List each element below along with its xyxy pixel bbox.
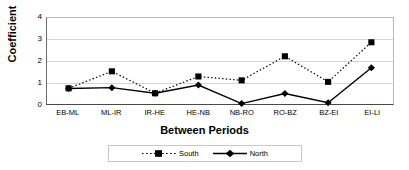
legend-swatch-south-dotted-square-icon	[142, 149, 176, 158]
legend-label-north: North	[250, 149, 268, 158]
legend-item-north[interactable]: North	[213, 149, 268, 158]
y-axis-tick-labels: 0 1 2 3 4	[28, 0, 42, 170]
data-point-south-nb-ro	[239, 77, 245, 83]
data-point-north-ml-ir	[108, 84, 115, 91]
legend-label-south: South	[179, 149, 199, 158]
x-axis-tick-labels: EB-MLML-IRIR-HEHE-NBNB-RORO-BZBZ-EIEI-LI	[46, 108, 394, 120]
plot-area	[46, 17, 394, 105]
data-point-south-ro-bz	[282, 53, 288, 59]
data-point-south-ml-ir	[109, 68, 115, 74]
x-axis-title: Between Periods	[0, 124, 409, 136]
series-plot	[47, 18, 393, 104]
chart-container: Coefficient 0 1 2 3 4 EB-MLML-IRIR-HEHE-…	[0, 0, 409, 170]
x-tick-label-ir-he: IR-HE	[145, 108, 165, 118]
legend: South North	[108, 145, 302, 162]
data-point-north-ro-bz	[281, 90, 288, 97]
x-tick-label-ei-li: EI-LI	[364, 108, 380, 118]
legend-swatch-north-solid-diamond-icon	[213, 149, 247, 158]
x-tick-label-ro-bz: RO-BZ	[274, 108, 297, 118]
data-point-south-ei-li	[368, 39, 374, 45]
x-tick-label-ml-ir: ML-IR	[101, 108, 121, 118]
x-tick-label-nb-ro: NB-RO	[230, 108, 254, 118]
data-point-north-nb-ro	[238, 100, 245, 107]
data-point-south-he-nb	[195, 73, 201, 79]
series-line-south	[69, 42, 372, 93]
data-point-south-bz-ei	[325, 79, 331, 85]
x-tick-label-he-nb: HE-NB	[187, 108, 210, 118]
y-tick-2: 2	[30, 57, 42, 65]
y-tick-4: 4	[30, 13, 42, 21]
x-tick-label-bz-ei: BZ-EI	[319, 108, 338, 118]
data-point-north-he-nb	[195, 82, 202, 89]
y-tick-3: 3	[30, 35, 42, 43]
x-tick-label-eb-ml: EB-ML	[56, 108, 79, 118]
y-tick-1: 1	[30, 79, 42, 87]
y-axis-title: Coefficient	[6, 0, 18, 74]
y-tick-0: 0	[30, 101, 42, 109]
legend-item-south[interactable]: South	[142, 149, 199, 158]
